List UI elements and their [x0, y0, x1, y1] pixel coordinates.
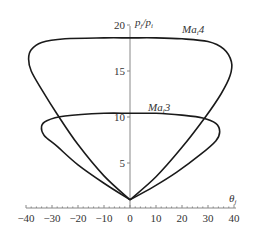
y-tick-label: 15: [114, 65, 126, 77]
x-tick-label: −30: [43, 212, 61, 224]
label-ma3: Mai3: [147, 101, 171, 115]
x-tick-label: −20: [69, 212, 87, 224]
x-axis-title: θj: [229, 192, 236, 206]
y-tick-label: 5: [120, 157, 126, 169]
x-tick-label: −40: [17, 212, 35, 224]
y-tick-label: 20: [114, 19, 126, 31]
x-tick-label: 0: [127, 212, 133, 224]
chart: −40−30−20−10010203040 5101520 pj/pi θj M…: [0, 0, 254, 234]
x-tick-label: 10: [151, 212, 163, 224]
y-axis-title: pj/pi: [134, 16, 153, 30]
y-ticks: 5101520: [114, 19, 130, 169]
label-ma4: Mai4: [181, 23, 205, 37]
curve-ma3: [41, 113, 219, 200]
x-tick-label: −10: [95, 212, 113, 224]
x-tick-label: 40: [229, 212, 241, 224]
x-tick-label: 30: [203, 212, 215, 224]
x-tick-label: 20: [177, 212, 189, 224]
